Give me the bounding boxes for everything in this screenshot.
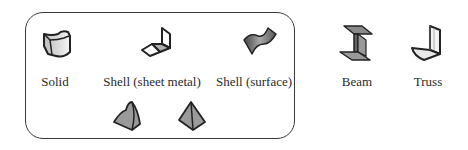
surface-label: Shell (surface) — [216, 74, 292, 90]
solid-label: Solid — [41, 74, 68, 90]
solid-icon — [40, 26, 76, 62]
truss-label: Truss — [414, 74, 442, 90]
curved-tetrahedron-icon — [110, 98, 144, 134]
beam-icon — [336, 22, 376, 64]
surface-icon — [238, 24, 278, 60]
beam-label: Beam — [342, 74, 372, 90]
sheet-metal-icon — [138, 24, 178, 62]
sheet-metal-label: Shell (sheet metal) — [103, 74, 200, 90]
tetrahedron-icon — [175, 98, 209, 134]
truss-icon — [408, 22, 448, 64]
